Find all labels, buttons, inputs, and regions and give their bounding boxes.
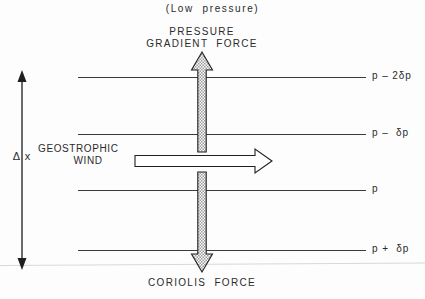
delta-x-axis (18, 70, 27, 270)
arrow-vector-layer (0, 0, 425, 299)
geostrophic-wind-diagram: (Low pressure) PRESSURE GRADIENT FORCE C… (0, 0, 425, 299)
pressure-gradient-force-arrow (192, 52, 213, 152)
geostrophic-wind-arrow (135, 149, 272, 173)
coriolis-force-arrow (192, 172, 213, 272)
